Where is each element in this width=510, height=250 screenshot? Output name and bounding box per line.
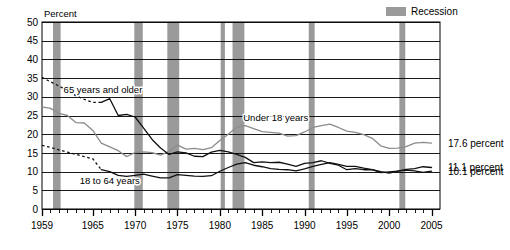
- y-axis-title: Percent: [44, 8, 77, 19]
- x-tick-label-1980: 1980: [209, 220, 232, 231]
- y-tick-label-35: 35: [27, 73, 39, 84]
- legend-recession-swatch: [386, 7, 406, 16]
- legend-recession-label: Recession: [411, 6, 458, 17]
- x-tick-label-1995: 1995: [336, 220, 359, 231]
- y-tick-label-40: 40: [27, 54, 39, 65]
- recession-band-6: [309, 22, 315, 209]
- y-tick-label-20: 20: [27, 129, 39, 140]
- recession-band-1: [53, 22, 61, 209]
- x-tick-label-1959: 1959: [31, 220, 54, 231]
- y-tick-label-5: 5: [32, 185, 38, 196]
- series-annotation-65-years-and-older: 65 years and older: [64, 84, 143, 95]
- y-tick-label-30: 30: [27, 91, 39, 102]
- chart-legend: Recession: [386, 6, 458, 17]
- chart-canvas: 05101520253035404550 1959196519701975198…: [0, 0, 510, 250]
- recession-band-4: [221, 22, 225, 209]
- x-tick-label-1965: 1965: [82, 220, 105, 231]
- y-tick-label-45: 45: [27, 35, 39, 46]
- series-annotation-under-18-years: Under 18 years: [243, 112, 308, 123]
- x-tick-label-2000: 2000: [378, 220, 401, 231]
- y-tick-label-0: 0: [32, 204, 38, 215]
- y-tick-label-25: 25: [27, 110, 39, 121]
- recession-band-3: [167, 22, 179, 209]
- x-tick-label-1990: 1990: [293, 220, 316, 231]
- recession-band-7: [399, 22, 405, 209]
- x-tick-label-1985: 1985: [251, 220, 274, 231]
- x-tick-label-1975: 1975: [166, 220, 189, 231]
- x-tick-label-1970: 1970: [124, 220, 147, 231]
- y-tick-label-50: 50: [27, 17, 39, 28]
- end-label-under-18-years: 17.6 percent: [448, 138, 504, 149]
- y-tick-label-10: 10: [27, 166, 39, 177]
- y-tick-label-15: 15: [27, 148, 39, 159]
- series-annotation-18-to-64-years: 18 to 64 years: [80, 175, 140, 186]
- end-label-65-years-and-older: 10.1 percent: [448, 166, 504, 177]
- poverty-rate-line-chart: 05101520253035404550 1959196519701975198…: [0, 0, 510, 250]
- x-tick-label-2005: 2005: [420, 220, 443, 231]
